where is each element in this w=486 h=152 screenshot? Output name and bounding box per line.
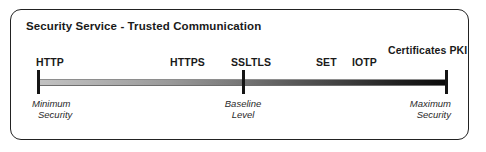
annotation-baseline-level: Baseline Level [213,98,273,120]
protocol-label-http-text: HTTP [36,56,64,68]
annotation-baseline-line1: Baseline [225,98,261,109]
protocol-label-set: SET [316,57,337,69]
protocol-label-iotp-text: IOTP [352,56,377,68]
protocol-label-https: HTTPS [170,57,205,69]
annotation-minimum-line1: Minimum [32,98,71,109]
protocol-label-iotp: IOTP [352,57,377,69]
protocol-label-pki-text: PKI [449,44,467,56]
annotation-maximum-security: Maximum Security [381,98,451,120]
protocol-label-ssltls-text: SSLTLS [231,56,271,68]
protocol-label-http: HTTP [36,57,64,69]
security-scale-diagram: Security Service - Trusted Communication… [0,0,486,152]
maximum-security-tick [445,70,448,94]
protocol-label-https-text: HTTPS [170,56,205,68]
protocol-label-ssltls: SSLTLS [231,57,271,69]
baseline-level-tick [242,70,245,94]
protocol-label-set-text: SET [316,56,337,68]
diagram-title: Security Service - Trusted Communication [26,20,261,32]
annotation-baseline-line2: Level [213,109,273,120]
annotation-minimum-line2: Security [32,109,72,120]
annotation-maximum-line1: Maximum [410,98,451,109]
annotation-maximum-line2: Security [381,109,451,120]
annotation-minimum-security: Minimum Security [32,98,72,120]
minimum-security-tick [37,70,40,94]
protocol-label-certificates-pki: Certificates PKI [388,45,467,57]
protocol-label-certificates-text: Certificates [388,44,446,56]
